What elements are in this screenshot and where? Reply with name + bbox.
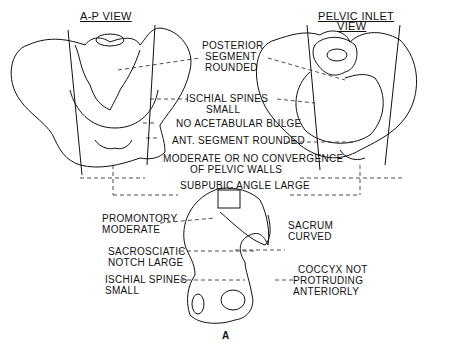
- figure-letter: A: [222, 330, 230, 341]
- acetabular-label: NO ACETABULAR BULGE: [176, 118, 302, 129]
- sacrum-label-2: CURVED: [288, 231, 332, 242]
- ischial-spines-label-1: ISCHIAL SPINES: [186, 93, 268, 104]
- notch-label-2: NOTCH LARGE: [108, 257, 184, 268]
- lateral-spines-label-1: ISCHIAL SPINES: [105, 274, 187, 285]
- ap-view-title: A-P VIEW: [80, 11, 132, 22]
- ant-segment-label: ANT. SEGMENT ROUNDED: [172, 135, 305, 146]
- sacrum-label-1: SACRUM: [288, 220, 333, 231]
- posterior-label-1: POSTERIOR: [202, 40, 264, 51]
- notch-label-1: SACROSCIATIC: [108, 246, 186, 257]
- convergence-label-2: OF PELVIC WALLS: [190, 164, 282, 175]
- posterior-label-3: ROUNDED: [205, 62, 258, 73]
- coccyx-label-2: PROTRUDING: [293, 275, 363, 286]
- promontory-label-2: MODERATE: [102, 224, 160, 235]
- lateral-spines-label-2: SMALL: [105, 285, 139, 296]
- inlet-view-title-2: VIEW: [337, 21, 366, 32]
- inlet-pelvis-icon: [256, 25, 416, 170]
- coccyx-label-1: COCCYX NOT: [298, 264, 368, 275]
- lateral-pelvis-icon: [184, 188, 270, 323]
- coccyx-label-3: ANTERIORLY: [293, 286, 359, 297]
- ischial-spines-label-2: SMALL: [206, 104, 240, 115]
- posterior-label-2: SEGMENT: [205, 51, 257, 62]
- convergence-label-1: MODERATE OR NO CONVERGENCE: [163, 153, 343, 164]
- promontory-label-1: PROMONTORY: [102, 213, 177, 224]
- subpubic-label: SUBPUBIC ANGLE LARGE: [180, 180, 310, 191]
